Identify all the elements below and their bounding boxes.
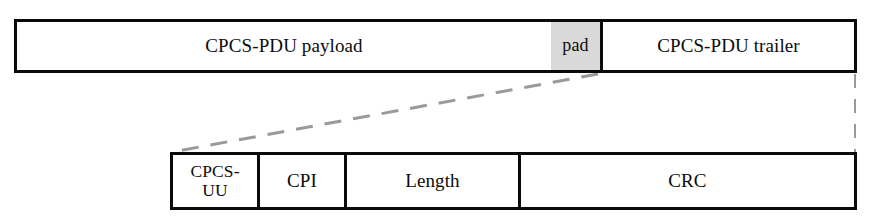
field-label: Length	[405, 171, 459, 191]
field-label: CPI	[287, 171, 317, 191]
field-label: CPCS-PDU payload	[205, 36, 362, 56]
field-crc: CRC	[518, 155, 854, 207]
field-label: CPCS- UU	[190, 162, 239, 199]
field-label: pad	[562, 36, 588, 55]
field-cpi: CPI	[257, 155, 344, 207]
field-cpcs-pdu-trailer: CPCS-PDU trailer	[600, 22, 854, 70]
cpcs-pdu-trailer-detail-bar: CPCS- UU CPI Length CRC	[170, 152, 857, 210]
field-cpcs-pdu-payload: CPCS-PDU payload	[17, 22, 551, 70]
diagonal-guide-line	[172, 74, 598, 152]
field-length: Length	[344, 155, 518, 207]
cpcs-pdu-diagram: CPCS-PDU payload pad CPCS-PDU trailer CP…	[0, 0, 877, 223]
cpcs-pdu-bar: CPCS-PDU payload pad CPCS-PDU trailer	[14, 19, 857, 73]
field-label: CPCS-PDU trailer	[657, 36, 800, 56]
field-pad: pad	[551, 22, 600, 70]
field-cpcs-uu: CPCS- UU	[173, 155, 257, 207]
field-label: CRC	[668, 171, 706, 191]
